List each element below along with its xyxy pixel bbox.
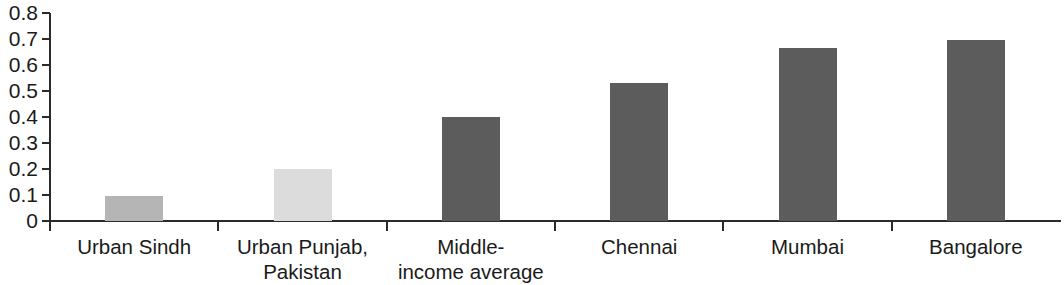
- bar: [442, 117, 500, 221]
- x-tick-mark: [217, 222, 219, 231]
- x-axis-label: Chennai: [555, 234, 723, 259]
- bar: [105, 196, 163, 221]
- x-tick-mark: [722, 222, 724, 231]
- bar: [779, 48, 837, 221]
- x-axis-label: Bangalore: [892, 234, 1060, 259]
- x-axis-label: Urban Sindh: [50, 234, 218, 259]
- y-tick-label: 0.2: [0, 158, 38, 179]
- x-tick-mark: [554, 222, 556, 231]
- bar: [610, 83, 668, 221]
- x-axis-label-line: Urban Sindh: [77, 235, 191, 258]
- y-tick-label: 0.7: [0, 28, 38, 49]
- y-tick-label: 0.6: [0, 54, 38, 75]
- plot-area: [50, 13, 1060, 221]
- x-axis-label-line: Urban Punjab,: [237, 235, 368, 258]
- x-axis-label: Urban Punjab,Pakistan: [218, 234, 386, 284]
- x-axis-label-line: Mumbai: [771, 235, 844, 258]
- x-axis-label: Middle-income average: [387, 234, 555, 284]
- y-tick-label: 0.3: [0, 132, 38, 153]
- x-axis-label: Mumbai: [723, 234, 891, 259]
- y-tick-label: 0.1: [0, 184, 38, 205]
- x-axis-label-line: Chennai: [601, 235, 677, 258]
- y-tick-label: 0.5: [0, 80, 38, 101]
- y-tick-label: 0.8: [0, 2, 38, 23]
- x-axis-label-line: Bangalore: [929, 235, 1022, 258]
- bar-chart: 00.10.20.30.40.50.60.70.8 Urban SindhUrb…: [0, 0, 1064, 285]
- x-axis-label-line: income average: [387, 259, 555, 284]
- x-axis-labels: Urban SindhUrban Punjab,PakistanMiddle-i…: [0, 234, 1064, 285]
- bar: [947, 40, 1005, 221]
- y-tick-label: 0: [0, 210, 38, 231]
- x-axis-label-line: Pakistan: [218, 259, 386, 284]
- y-tick-label: 0.4: [0, 106, 38, 127]
- x-tick-mark: [49, 222, 51, 231]
- x-tick-mark: [891, 222, 893, 231]
- x-axis-label-line: Middle-: [437, 235, 504, 258]
- x-tick-mark: [386, 222, 388, 231]
- bar: [274, 169, 332, 221]
